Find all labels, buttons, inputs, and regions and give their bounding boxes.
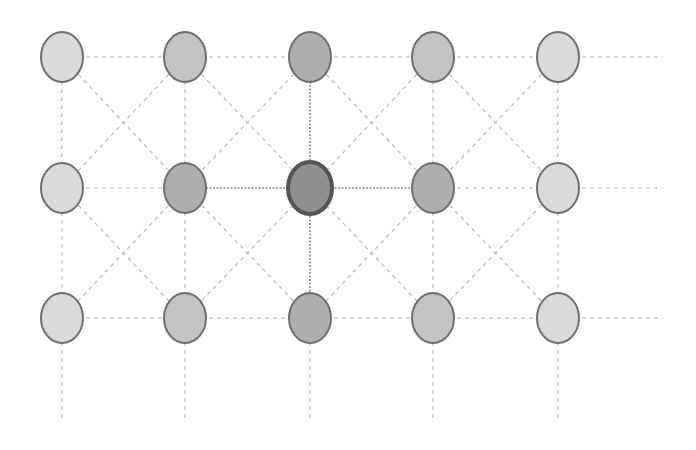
center-node [288,162,332,214]
grid-node [164,293,206,343]
edges-layer [62,57,663,420]
grid-node [164,32,206,82]
grid-node [289,293,331,343]
grid-node [164,163,206,213]
grid-node [289,32,331,82]
grid-node [412,163,454,213]
grid-node [412,32,454,82]
grid-node [41,293,83,343]
grid-node [41,32,83,82]
grid-node [537,32,579,82]
grid-node [412,293,454,343]
grid-node [537,163,579,213]
grid-node [537,293,579,343]
grid-graph-canvas [0,0,696,450]
grid-node [41,163,83,213]
